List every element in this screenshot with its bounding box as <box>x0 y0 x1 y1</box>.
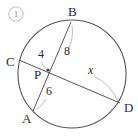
problem-index-label: 1 <box>14 9 19 19</box>
leader-line-4 <box>41 62 47 70</box>
vertex-label-p: P <box>34 67 41 82</box>
problem-index: 1 <box>9 7 23 21</box>
segment-label-pd: x <box>87 63 94 77</box>
segment-label-pa: 6 <box>46 84 52 98</box>
circle-chord-figure: 1 A B C D P 4 8 6 x <box>0 0 138 136</box>
segment-label-pb: 8 <box>64 44 70 58</box>
vertex-label-a: A <box>22 111 32 126</box>
segment-label-pc: 4 <box>38 47 44 61</box>
vertex-label-b: B <box>68 4 77 19</box>
geometry-canvas: 1 A B C D P 4 8 6 x <box>0 0 138 136</box>
vertex-label-d: D <box>124 100 133 115</box>
vertex-label-c: C <box>6 54 15 69</box>
